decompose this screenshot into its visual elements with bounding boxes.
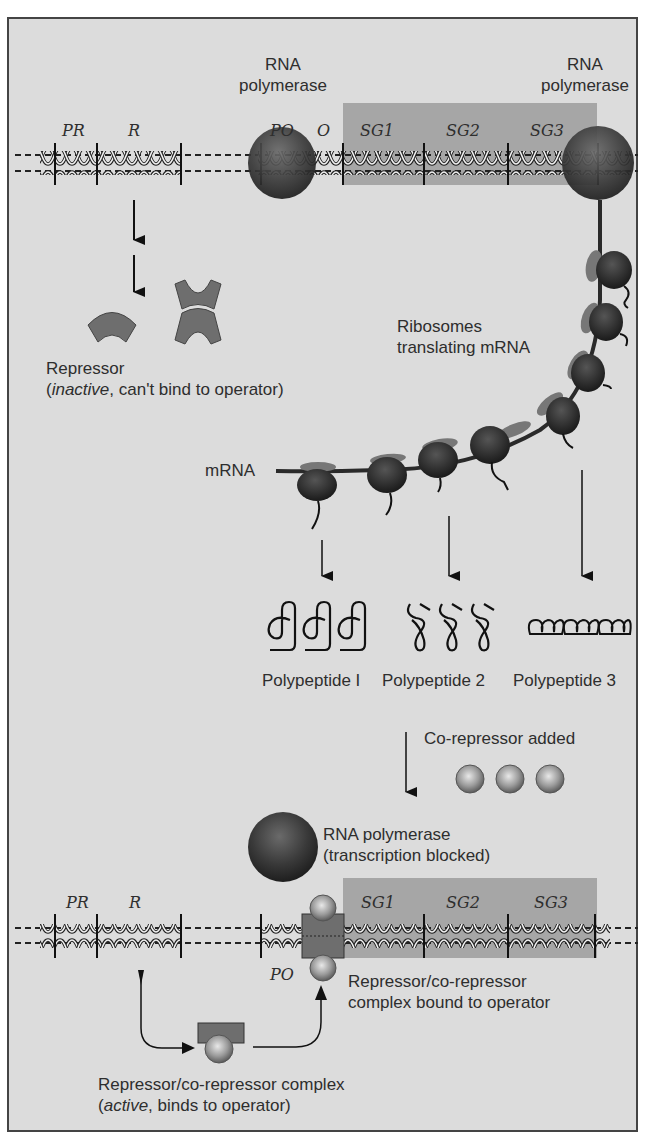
polypeptide-2-icon <box>408 604 494 650</box>
gene-label-sg3: SG3 <box>530 121 564 141</box>
repressor-inactive-icon <box>88 313 136 343</box>
rna-polymerase-blocked <box>248 812 318 882</box>
gene-label-pr: PR <box>62 121 85 141</box>
gene-label-o: O <box>317 121 330 141</box>
polypeptide-3-label: Polypeptide 3 <box>513 671 616 691</box>
polymerase-left-label: RNA polymerase <box>230 54 336 96</box>
dna-helix-genes <box>344 924 610 948</box>
gene-label-sg2-bottom: SG2 <box>446 893 480 913</box>
ribosomes-label: Ribosomes translating mRNA <box>397 316 530 358</box>
ribosome-icon <box>563 347 611 392</box>
gene-label-r-bottom: R <box>129 893 141 913</box>
arrow-icon <box>141 970 182 1048</box>
rna-polymerase-transcribing <box>562 126 634 200</box>
ribosome-icon <box>583 249 632 308</box>
ribosome-icon <box>577 300 627 346</box>
repressor-inactive-label: Repressor (inactive, can't bind to opera… <box>46 358 284 400</box>
gene-label-po-bottom: PO <box>270 965 294 985</box>
polypeptide-1-icon <box>269 602 365 650</box>
corepressor-molecules <box>456 765 564 793</box>
repressor-corepressor-bound <box>302 895 344 981</box>
gene-label-sg3-bottom: SG3 <box>534 893 568 913</box>
gene-label-po: PO <box>270 121 294 141</box>
dna-helix-promoter <box>262 924 302 948</box>
ribosome-icon <box>367 452 407 515</box>
polypeptide-3-icon <box>529 620 631 634</box>
top-operon <box>15 103 638 200</box>
repressor-dimer-icon <box>175 280 221 344</box>
gene-label-sg1: SG1 <box>360 121 394 141</box>
gene-label-sg2: SG2 <box>446 121 480 141</box>
arrow-icon <box>253 996 321 1047</box>
active-complex-label: Repressor/co-repressor complex (active, … <box>98 1074 345 1116</box>
arrow-head-icon <box>315 985 327 1000</box>
bound-complex-label: Repressor/co-repressor complex bound to … <box>348 971 550 1013</box>
dna-helix-regulator <box>40 924 182 948</box>
gene-label-sg1-bottom: SG1 <box>361 893 395 913</box>
polypeptide-2-label: Polypeptide 2 <box>382 671 485 691</box>
diagram-artwork <box>0 0 654 1140</box>
corepressor-icon <box>536 765 564 793</box>
corepressor-label: Co-repressor added <box>424 729 575 749</box>
repressor-corepressor-complex-icon <box>198 1023 244 1063</box>
corepressor-icon <box>456 765 484 793</box>
gene-label-r: R <box>128 121 140 141</box>
polypeptide-1-label: Polypeptide I <box>262 671 360 691</box>
ribosome-icon <box>418 436 459 492</box>
blocked-polymerase-label: RNA polymerase (transcription blocked) <box>323 824 490 866</box>
gene-label-pr-bottom: PR <box>66 893 89 913</box>
polymerase-right-label: RNA polymerase <box>532 54 638 96</box>
mrna-label: mRNA <box>205 461 255 481</box>
arrow-head-icon <box>182 1042 195 1054</box>
corepressor-icon <box>496 765 524 793</box>
ribosome-icon <box>470 418 533 490</box>
dna-helix-regulator <box>40 151 182 175</box>
